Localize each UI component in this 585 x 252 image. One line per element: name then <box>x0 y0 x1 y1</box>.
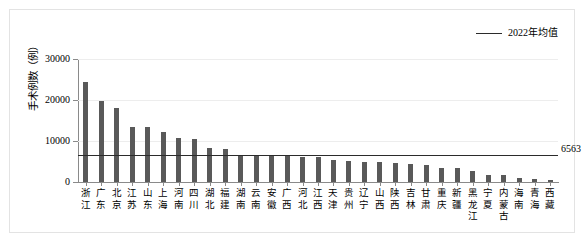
x-axis-tick-label: 甘肃 <box>419 188 433 211</box>
legend-line-swatch <box>476 33 502 34</box>
x-axis-tick-mark <box>272 182 273 186</box>
x-axis-tick-mark <box>535 182 536 186</box>
mean-value-label: 6563 <box>561 144 581 154</box>
x-axis-tick-mark <box>380 182 381 186</box>
y-axis-tick-label: 30000 <box>18 54 70 64</box>
x-axis-tick-mark <box>318 182 319 186</box>
x-axis-tick-label: 内蒙古 <box>497 188 511 223</box>
y-axis-tick-mark <box>73 100 78 101</box>
x-axis-tick-mark <box>132 182 133 186</box>
x-axis-tick-mark <box>101 182 102 186</box>
bar <box>176 138 181 182</box>
x-axis-tick-label: 上海 <box>156 188 170 211</box>
x-axis-tick-mark <box>225 182 226 186</box>
mean-line <box>78 155 558 156</box>
bar <box>424 165 429 182</box>
x-axis-tick-label: 宁夏 <box>481 188 495 211</box>
x-axis-tick-label: 海南 <box>512 188 526 211</box>
x-axis-tick-labels: 浙江广东北京江苏山东上海河南四川湖北福建湖南云南安徽广西河北江西天津贵州辽宁山西… <box>78 188 559 232</box>
x-axis-tick-mark <box>488 182 489 186</box>
x-axis-tick-label: 江苏 <box>125 188 139 211</box>
y-axis-tick-mark <box>73 182 78 183</box>
gridline <box>78 59 558 60</box>
y-axis-title: 手术例数（例） <box>28 16 40 136</box>
x-axis-tick-label: 河北 <box>296 188 310 211</box>
x-axis-tick-mark <box>163 182 164 186</box>
y-axis-tick-mark <box>73 59 78 60</box>
x-axis-tick-mark <box>473 182 474 186</box>
x-axis-tick-mark <box>86 182 87 186</box>
x-axis-tick-label: 河南 <box>172 188 186 211</box>
bar <box>377 162 382 182</box>
x-axis-tick-label: 云南 <box>249 188 263 211</box>
bar <box>83 82 88 182</box>
x-axis-tick-label: 西藏 <box>543 188 557 211</box>
chart-card: 2022年均值 0100002000030000 手术例数（例） 浙江广东北京江… <box>9 9 575 233</box>
x-axis-tick-label: 福建 <box>218 188 232 211</box>
bar <box>346 161 351 182</box>
bar <box>238 156 243 182</box>
y-axis-tick-label: 0 <box>18 177 70 187</box>
bar <box>269 156 274 182</box>
bar <box>207 148 212 182</box>
x-axis-tick-label: 江西 <box>311 188 325 211</box>
bar <box>486 175 491 182</box>
x-axis-tick-mark <box>179 182 180 186</box>
bar <box>408 164 413 182</box>
chart-legend: 2022年均值 <box>476 28 558 38</box>
bar <box>439 168 444 182</box>
x-axis-tick-label: 山西 <box>373 188 387 211</box>
bar <box>99 101 104 182</box>
x-axis-tick-label: 湖南 <box>234 188 248 211</box>
x-axis-tick-mark <box>333 182 334 186</box>
x-axis-tick-mark <box>241 182 242 186</box>
bar <box>316 157 321 182</box>
y-axis-tick-mark <box>73 141 78 142</box>
x-axis-tick-label: 四川 <box>187 188 201 211</box>
bar <box>114 108 119 182</box>
x-axis-tick-label: 重庆 <box>435 188 449 211</box>
x-axis-tick-mark <box>411 182 412 186</box>
bar <box>161 132 166 182</box>
bar <box>254 156 259 182</box>
bar <box>300 157 305 182</box>
bar <box>393 163 398 182</box>
x-axis-tick-mark <box>148 182 149 186</box>
x-axis-tick-mark <box>256 182 257 186</box>
x-axis-tick-label: 吉林 <box>404 188 418 211</box>
x-axis-tick-mark <box>550 182 551 186</box>
bar <box>470 171 475 182</box>
legend-label-mean: 2022年均值 <box>508 28 558 38</box>
x-axis-tick-label: 陕西 <box>388 188 402 211</box>
bar <box>362 162 367 182</box>
x-axis-tick-label: 贵州 <box>342 188 356 211</box>
x-axis-tick-label: 辽宁 <box>357 188 371 211</box>
x-axis-tick-mark <box>519 182 520 186</box>
x-axis-tick-mark <box>210 182 211 186</box>
x-axis-tick-mark <box>426 182 427 186</box>
y-axis-tick-label: 10000 <box>18 136 70 146</box>
x-axis-tick-label: 天津 <box>326 188 340 211</box>
x-axis-tick-mark <box>117 182 118 186</box>
gridline <box>78 100 558 101</box>
x-axis-tick-mark <box>287 182 288 186</box>
x-axis-tick-mark <box>442 182 443 186</box>
x-axis-tick-label: 山东 <box>141 188 155 211</box>
x-axis-tick-label: 新疆 <box>450 188 464 211</box>
plot-area <box>78 59 558 182</box>
bar <box>501 175 506 182</box>
x-axis-tick-mark <box>364 182 365 186</box>
x-axis-tick-label: 安徽 <box>265 188 279 211</box>
x-axis-tick-mark <box>504 182 505 186</box>
x-axis-tick-mark <box>303 182 304 186</box>
x-axis-tick-label: 广东 <box>94 188 108 211</box>
y-axis-tick-label: 20000 <box>18 95 70 105</box>
x-axis-tick-label: 黑龙江 <box>466 188 480 223</box>
x-axis-tick-mark <box>457 182 458 186</box>
bar <box>192 139 197 182</box>
y-axis-tick-labels: 0100002000030000 <box>10 10 70 234</box>
bar <box>331 160 336 182</box>
x-axis-tick-label: 广西 <box>280 188 294 211</box>
x-axis-tick-mark <box>349 182 350 186</box>
x-axis-tick-label: 浙江 <box>79 188 93 211</box>
